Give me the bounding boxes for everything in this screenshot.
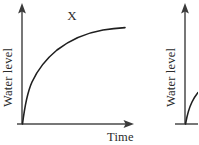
figure-container: Water level Time X Water level: [0, 0, 198, 145]
y-axis-label: Water level: [1, 48, 15, 107]
chart-svg-x: Water level Time X: [0, 0, 145, 145]
y-axis-label-2: Water level: [164, 48, 178, 107]
water-level-curve-2: [186, 93, 199, 125]
chart-panel-y: Water level: [150, 0, 198, 145]
water-level-curve: [23, 28, 126, 124]
x-axis-label: Time: [107, 130, 134, 144]
chart-panel-x: Water level Time X: [0, 0, 145, 145]
chart-svg-y: Water level: [150, 0, 198, 145]
panel-title-x: X: [67, 8, 77, 23]
